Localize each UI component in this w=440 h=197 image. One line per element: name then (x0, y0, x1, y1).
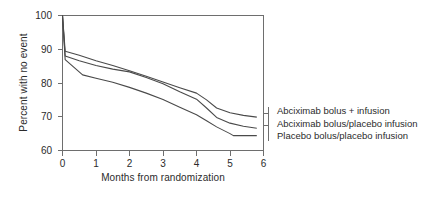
x-tick-marks (63, 151, 264, 157)
legend-item-abciximab-bolus-infusion: Abciximab bolus + infusion (277, 105, 417, 118)
y-tick-label-90: 90 (26, 44, 52, 55)
legend-item-placebo-bolus-placebo-infusion: Placebo bolus/placebo infusion (277, 130, 417, 143)
x-axis-label: Months from randomization (62, 172, 264, 183)
x-tick-label-0: 0 (55, 158, 71, 169)
kaplan-meier-chart: Percent with no event Months from random… (0, 0, 440, 197)
y-tick-label-70: 70 (26, 111, 52, 122)
x-tick-label-1: 1 (88, 158, 104, 169)
x-tick-label-5: 5 (222, 158, 238, 169)
survival-curves (63, 16, 257, 136)
x-tick-label-3: 3 (155, 158, 171, 169)
curve-series-2 (63, 16, 257, 136)
y-tick-label-60: 60 (26, 145, 52, 156)
y-tick-marks (58, 16, 63, 151)
y-tick-label-100: 100 (26, 10, 52, 21)
legend-item-abciximab-bolus-placebo-infusion: Abciximab bolus/placebo infusion (277, 118, 417, 131)
chart-legend: Abciximab bolus + infusion Abciximab bol… (277, 105, 417, 143)
plot-frame (63, 16, 264, 151)
curve-series-0 (63, 16, 257, 118)
x-tick-label-2: 2 (122, 158, 138, 169)
x-tick-label-4: 4 (189, 158, 205, 169)
x-tick-label-6: 6 (256, 158, 272, 169)
y-tick-label-80: 80 (26, 78, 52, 89)
